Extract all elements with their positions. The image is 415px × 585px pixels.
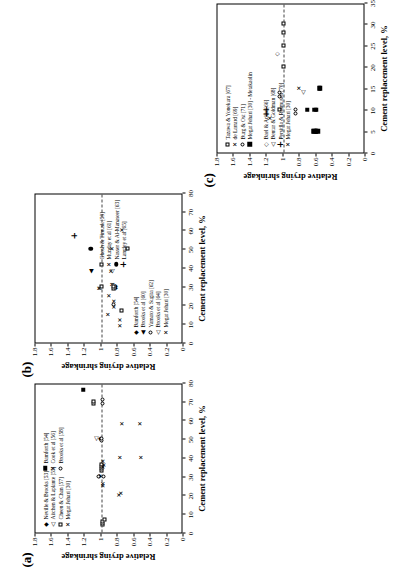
x-tick-label: 50 xyxy=(186,436,194,443)
x-tick-label: 60 xyxy=(186,417,194,424)
x-tick-label: 10 xyxy=(368,107,376,114)
x-tick-label: 20 xyxy=(186,492,194,499)
legend-item: Brooks et al [58] xyxy=(56,427,64,472)
x-tick xyxy=(182,457,185,458)
y-tick xyxy=(166,343,167,346)
y-tick xyxy=(133,533,134,536)
y-tick-label: 0 xyxy=(178,537,186,559)
legend-item: ✕de Larrard [69] xyxy=(231,72,239,148)
figure-root: (a)◆◆◁✕✕✕✕✕✕✕✕✕✕✕◆Neville & Brooks [53]◁… xyxy=(0,0,415,585)
y-tick xyxy=(34,343,35,346)
y-tick-label: 0.2 xyxy=(162,347,170,369)
legend-label: de Larrard [69] xyxy=(231,106,237,139)
legend-label: Megat Johari [30] xyxy=(162,289,168,327)
panel-a: (a)◆◆◁✕✕✕✕✕✕✕✕✕✕✕◆Neville & Brooks [53]◁… xyxy=(18,347,236,567)
legend-label: Cook et al [56] xyxy=(49,431,55,463)
panel-c: (c)✕✕◇◁++Tazawa & Yonekura [67]✕de Larra… xyxy=(200,0,415,187)
x-axis-title-c: Cement replacement level, % xyxy=(378,25,388,132)
legend-item: ◆Bamforth [54] xyxy=(131,280,139,336)
x-tick xyxy=(182,382,185,383)
legend-label: Megat Johari [30] xyxy=(64,481,70,519)
legend-marker-icon xyxy=(223,139,231,148)
y-tick xyxy=(149,533,150,536)
y-tick xyxy=(100,533,101,536)
x-tick xyxy=(182,401,185,402)
y-tick xyxy=(249,153,250,156)
y-tick xyxy=(364,153,365,156)
y-tick xyxy=(67,533,68,536)
x-tick xyxy=(182,513,185,514)
legend-marker-icon: ◁ xyxy=(154,327,162,336)
panel-b: (b)◆◆◀◁✕✕✕✕✕✕✕✕✕✕✕✕✕+◆Bamforth [54]◀Broo… xyxy=(18,157,236,377)
legend-b-group-1: ◆Bamforth [54]◀Brooks et al [60]Yamato &… xyxy=(131,280,169,336)
y-tick xyxy=(182,343,183,346)
x-tick-label: 70 xyxy=(186,398,194,405)
legend-label: Cheen & Chan [57] xyxy=(57,477,63,519)
x-tick-label: 0 xyxy=(186,531,194,535)
x-tick-label: 30 xyxy=(186,283,194,290)
legend-item: ◁Bentur & Goldman [68] xyxy=(269,82,277,148)
legend-item: ◁Aitchen & Laplante [55] xyxy=(49,466,57,528)
x-tick xyxy=(364,45,367,46)
legend-item: +Langley et al [65] xyxy=(120,200,128,268)
legend-marker-icon: ✕ xyxy=(231,139,239,148)
legend-label: Megat Johari [30] xyxy=(284,101,290,139)
x-tick-label: 0 xyxy=(368,151,376,155)
legend-label: Neville & Brooks [53] xyxy=(42,471,48,519)
y-tick-label: 1.6 xyxy=(228,157,236,179)
x-tick-label: 70 xyxy=(186,208,194,215)
legend-item: ✕Megat Johari [30] xyxy=(284,82,292,148)
legend-item: +Persitlla & Rasmusen [70] xyxy=(276,82,284,148)
legend-label: Persitlla & Rasmusen [70] xyxy=(277,82,283,139)
legend-marker-icon: ◁ xyxy=(49,519,57,528)
legend-marker-icon: ◆ xyxy=(131,327,139,336)
legend-b-group-2: Ghosh & Timusk [59]✕Munday et al [61]Nas… xyxy=(97,200,127,268)
x-tick xyxy=(364,131,367,132)
legend-item: ✕Megat Johari [30] xyxy=(64,466,72,528)
y-tick xyxy=(67,343,68,346)
y-tick xyxy=(232,153,233,156)
legend-label: Yamato & Sugita [62] xyxy=(147,280,153,327)
legend-item: ◇Bael & Acker [66] xyxy=(261,82,269,148)
legend-marker-icon xyxy=(56,463,64,472)
legend-label: Tazawa & Yonekura [67] xyxy=(224,85,230,139)
legend-item: ◆Neville & Brooks [53] xyxy=(41,466,49,528)
x-tick xyxy=(182,323,185,324)
legend-label: Ghosh & Timusk [59] xyxy=(98,212,104,259)
legend-item: Megat Johari [30] - Metakaolin xyxy=(246,72,254,148)
y-tick xyxy=(315,153,316,156)
x-tick xyxy=(182,438,185,439)
x-tick-label: 15 xyxy=(368,85,376,92)
x-tick xyxy=(182,192,185,193)
x-tick-label: 30 xyxy=(186,473,194,480)
legend-a-group-2: Bamforth [54]✕Cook et al [56]Brooks et a… xyxy=(41,427,64,472)
y-tick-label: 0 xyxy=(360,157,368,179)
y-tick xyxy=(116,533,117,536)
x-tick xyxy=(364,23,367,24)
y-tick xyxy=(265,153,266,156)
legend-label: Munday et al [61] xyxy=(105,220,111,259)
legend-item: Nasser & Al-Manaseer [63] xyxy=(112,200,120,268)
legend-label: Brooks et al [58] xyxy=(57,427,63,463)
x-tick xyxy=(364,66,367,67)
y-tick-label: 1.8 xyxy=(30,347,38,369)
x-tick-label: 0 xyxy=(186,341,194,345)
legend-marker-icon: ✕ xyxy=(105,259,113,268)
y-tick xyxy=(116,343,117,346)
y-tick xyxy=(133,343,134,346)
x-tick xyxy=(364,109,367,110)
y-tick xyxy=(100,343,101,346)
x-tick-label: 50 xyxy=(186,246,194,253)
legend-label: Megat Johari [30] - Metakaolin xyxy=(246,72,252,139)
x-tick xyxy=(182,211,185,212)
legend-marker-icon xyxy=(41,463,49,472)
legend-marker-icon: + xyxy=(120,259,128,268)
legend-marker-icon: ◀ xyxy=(139,327,147,336)
legend-marker-icon xyxy=(246,139,254,148)
y-tick xyxy=(182,533,183,536)
legend-label: Langley et al [65] xyxy=(120,221,126,259)
legend-label: Nasser & Al-Manaseer [63] xyxy=(113,200,119,259)
legend-item: ✕Munday et al [61] xyxy=(105,200,113,268)
legend-marker-icon xyxy=(238,139,246,148)
legend-label: Bamforth [54] xyxy=(42,432,48,463)
